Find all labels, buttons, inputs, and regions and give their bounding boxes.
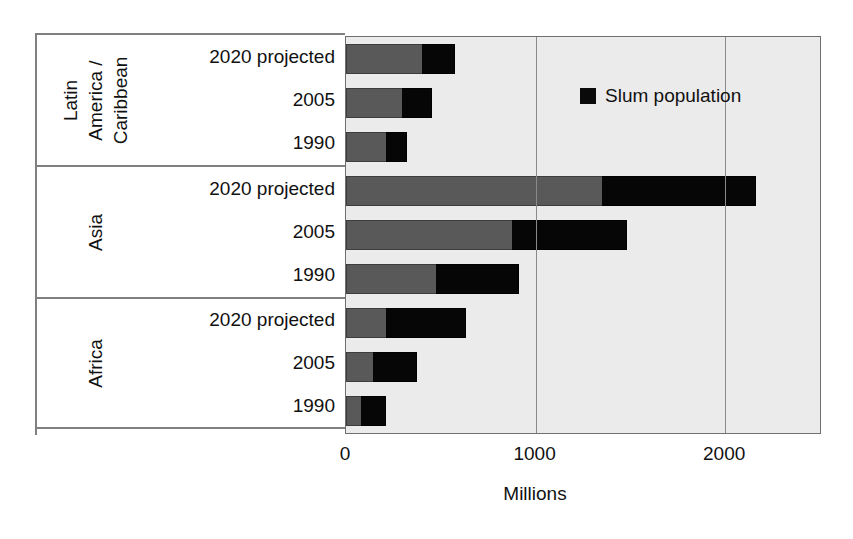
legend-label-slum-population: Slum population xyxy=(605,85,741,107)
group-label: LatinAmerica /Caribbean xyxy=(58,42,133,158)
bar-row xyxy=(346,44,455,74)
bar-segment-non-slum xyxy=(346,44,422,74)
group-row-labels: 2020 projected20051990 xyxy=(153,35,345,165)
bar-segment-non-slum xyxy=(346,352,373,382)
group-label: Asia xyxy=(83,214,108,251)
bar-row xyxy=(346,88,432,118)
bar-segment-non-slum xyxy=(346,132,386,162)
group-label: Africa xyxy=(82,339,107,388)
chart-legend: Slum population xyxy=(580,85,741,107)
bar-segment-slum xyxy=(436,264,518,294)
group-label-line: Asia xyxy=(83,214,108,251)
row-label: 1990 xyxy=(153,384,335,427)
legend-swatch-slum-population xyxy=(580,88,596,104)
bar-row xyxy=(346,396,386,426)
gridline-1000 xyxy=(536,37,537,433)
bar-segment-slum xyxy=(361,396,386,426)
x-axis-title: Millions xyxy=(345,483,725,505)
bar-segment-slum xyxy=(512,220,627,250)
category-group-latin-america-caribbean: LatinAmerica /Caribbean2020 projected200… xyxy=(37,33,345,165)
row-label: 2005 xyxy=(153,210,335,253)
group-label-cell: Africa xyxy=(37,299,153,427)
bar-segment-slum xyxy=(386,308,467,338)
group-label-line: America / xyxy=(83,42,108,158)
bar-row xyxy=(346,264,519,294)
group-row-labels: 2020 projected20051990 xyxy=(153,299,345,427)
group-label-line: Latin xyxy=(58,42,83,158)
bar-row xyxy=(346,352,417,382)
bar-segment-non-slum xyxy=(346,176,602,206)
group-row-labels: 2020 projected20051990 xyxy=(153,167,345,297)
category-group-africa: Africa2020 projected20051990 xyxy=(37,297,345,429)
x-axis-ticks: 010002000 xyxy=(345,443,821,473)
x-tick-label-1000: 1000 xyxy=(513,443,555,465)
bar-row xyxy=(346,176,756,206)
bar-segment-non-slum xyxy=(346,308,386,338)
bar-segment-slum xyxy=(422,44,455,74)
row-label: 2020 projected xyxy=(153,35,335,78)
bar-segment-non-slum xyxy=(346,88,402,118)
category-axis: LatinAmerica /Caribbean2020 projected200… xyxy=(35,33,345,435)
category-group-asia: Asia2020 projected20051990 xyxy=(37,165,345,297)
row-label: 2020 projected xyxy=(153,167,335,210)
bar-segment-non-slum xyxy=(346,396,361,426)
group-label-line: Caribbean xyxy=(108,42,133,158)
bar-row xyxy=(346,132,407,162)
bar-segment-slum xyxy=(602,176,756,206)
row-label: 2005 xyxy=(153,78,335,121)
row-label: 2020 projected xyxy=(153,299,335,342)
bar-segment-non-slum xyxy=(346,264,436,294)
bar-segment-slum xyxy=(386,132,407,162)
bar-row xyxy=(346,220,627,250)
group-label-cell: Asia xyxy=(37,167,153,297)
row-label: 1990 xyxy=(153,122,335,165)
group-label-cell: LatinAmerica /Caribbean xyxy=(37,35,153,165)
bar-segment-slum xyxy=(373,352,418,382)
x-tick-label-0: 0 xyxy=(340,443,351,465)
slum-population-chart: LatinAmerica /Caribbean2020 projected200… xyxy=(0,0,853,539)
bar-segment-slum xyxy=(402,88,432,118)
row-label: 1990 xyxy=(153,254,335,297)
row-label: 2005 xyxy=(153,342,335,385)
x-tick-label-2000: 2000 xyxy=(703,443,745,465)
bar-row xyxy=(346,308,466,338)
bar-segment-non-slum xyxy=(346,220,512,250)
group-label-line: Africa xyxy=(82,339,107,388)
